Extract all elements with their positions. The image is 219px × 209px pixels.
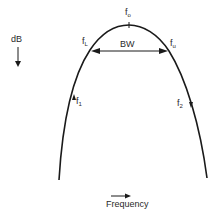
frequency-arrow-head-icon: [125, 194, 131, 199]
x-axis-label-text: Frequency: [106, 199, 149, 209]
center-frequency-sub: o: [128, 12, 131, 18]
bandwidth-arrow-left-head: [91, 48, 100, 54]
center-frequency-label: fo: [125, 8, 131, 18]
lower-cutoff-label: fL: [82, 37, 88, 47]
x-axis-label: Frequency: [106, 200, 149, 209]
db-arrow-head-icon: [15, 61, 21, 67]
lower-cutoff-sub: L: [85, 41, 88, 47]
bandwidth-label: BW: [120, 40, 135, 49]
upper-cutoff-label: fu: [170, 39, 176, 49]
f1-sub: 1: [79, 101, 82, 107]
bandpass-response-diagram: dB fo fL fu BW f1 f2 Frequency: [0, 0, 219, 209]
diagram-canvas: [0, 0, 219, 209]
f2-label: f2: [177, 99, 183, 109]
f2-sub: 2: [180, 103, 183, 109]
y-axis-label: dB: [11, 35, 22, 44]
upper-cutoff-sub: u: [173, 43, 176, 49]
y-axis-label-text: dB: [11, 34, 22, 44]
bandwidth-label-text: BW: [120, 39, 135, 49]
f1-label: f1: [76, 97, 82, 107]
